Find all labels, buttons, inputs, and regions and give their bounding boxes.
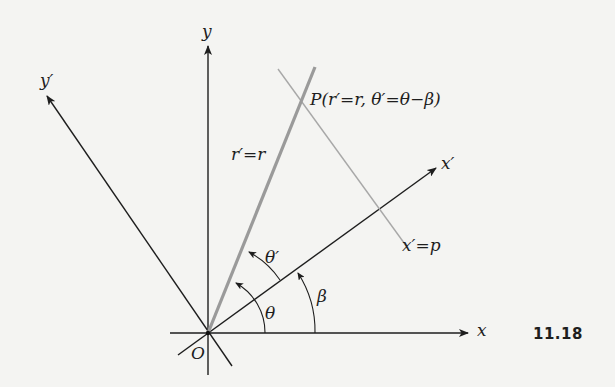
coordinate-rotation-diagram: y y′ x x′ O P(r′=r, θ′=θ−β) r′=r x′=p θ … — [0, 0, 615, 387]
x-prime-axis-label: x′ — [441, 155, 454, 172]
theta-arc — [236, 283, 265, 333]
origin-point — [206, 331, 210, 335]
line-label: x′=p — [402, 237, 441, 254]
beta-arc — [298, 273, 315, 333]
beta-label: β — [317, 288, 327, 305]
x-prime-axis — [178, 168, 436, 355]
x-axis-label: x — [477, 322, 487, 339]
y-axis-label: y — [202, 23, 212, 40]
figure-number: 11.18 — [533, 325, 583, 343]
ray-r-prime-equals-r — [208, 67, 315, 333]
diagram-canvas — [0, 0, 615, 387]
y-prime-axis — [47, 96, 232, 366]
origin-label: O — [191, 345, 205, 362]
theta-label: θ — [265, 305, 275, 322]
theta-prime-label: θ′ — [265, 249, 279, 266]
point-p-label: P(r′=r, θ′=θ−β) — [310, 91, 441, 108]
y-prime-axis-label: y′ — [40, 72, 53, 89]
ray-label: r′=r — [231, 146, 265, 163]
